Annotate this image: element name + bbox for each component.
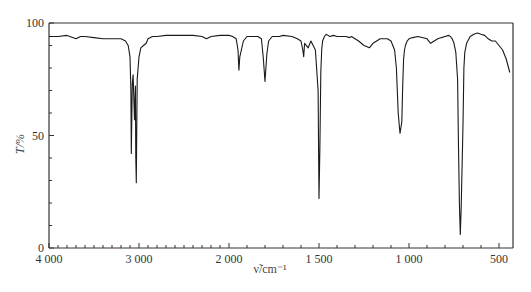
x-tick-label: 1 500 bbox=[306, 252, 333, 266]
x-tick-label: 500 bbox=[490, 252, 508, 266]
x-axis-title: ν̃/cm⁻¹ bbox=[253, 262, 286, 276]
spectrum-line bbox=[49, 33, 510, 234]
x-tick-label: 3 000 bbox=[126, 252, 153, 266]
x-tick-label: 1 000 bbox=[396, 252, 423, 266]
y-tick-label: 0 bbox=[38, 241, 44, 255]
y-tick-label: 100 bbox=[26, 16, 44, 30]
x-tick-label: 2 000 bbox=[216, 252, 243, 266]
y-axis-title: T/% bbox=[13, 134, 27, 154]
y-axis-ticks bbox=[49, 23, 54, 248]
y-axis-tick-labels: 050100 bbox=[26, 16, 44, 255]
plot-frame bbox=[49, 23, 513, 248]
x-axis-ticks bbox=[49, 243, 499, 248]
y-tick-label: 50 bbox=[32, 129, 44, 143]
ir-spectrum-chart: 4 0003 0002 0001 5001 000500 050100 ν̃/c… bbox=[0, 0, 531, 292]
